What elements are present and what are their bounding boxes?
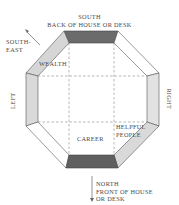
- career-label: CAREER: [77, 135, 104, 143]
- helpful-people-label: HELPFUL PEOPLE: [116, 123, 146, 138]
- north-arrow-icon: [90, 176, 94, 202]
- north-label: NORTH FRONT OF HOUSE OR DESK: [96, 180, 153, 203]
- northeast-band: [26, 122, 69, 168]
- left-band: [26, 73, 38, 126]
- southeast-label: SOUTH- EAST: [6, 38, 31, 53]
- south-band: [64, 31, 118, 43]
- southwest-band: [114, 31, 159, 76]
- wealth-label: WEALTH: [39, 60, 67, 68]
- left-label: LEFT: [9, 91, 17, 111]
- right-band: [147, 73, 159, 126]
- right-label: RIGHT: [165, 87, 173, 111]
- south-label: SOUTH BACK OF HOUSE OR DESK: [0, 13, 179, 28]
- north-band: [66, 155, 118, 168]
- bagua-diagram: [0, 0, 179, 205]
